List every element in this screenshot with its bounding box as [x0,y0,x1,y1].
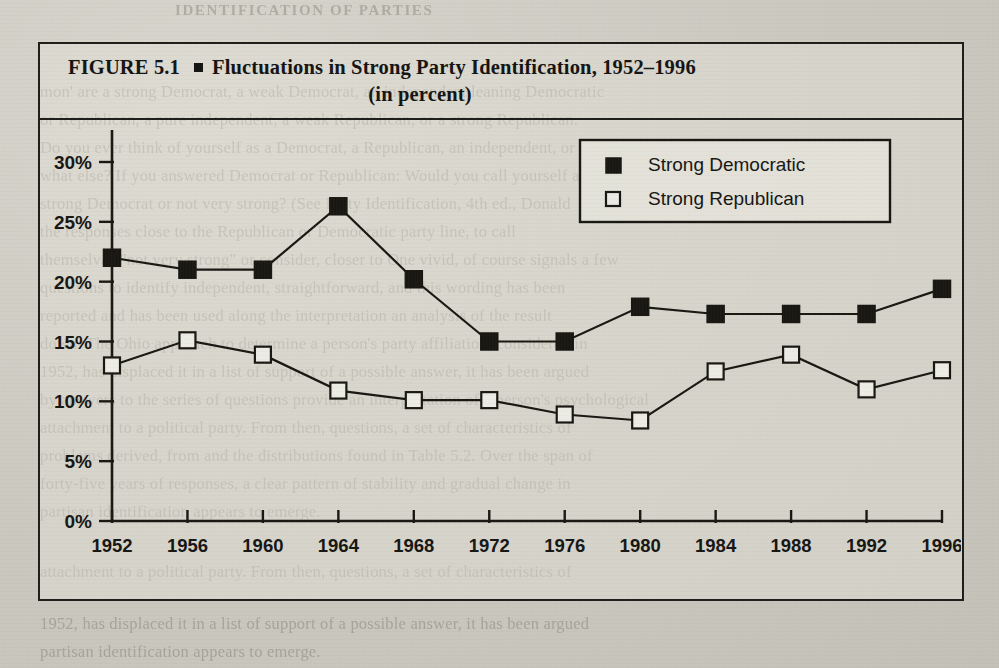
data-point-strong-democratic-1980 [632,298,649,315]
x-tick-label-1988: 1988 [771,535,812,556]
data-point-strong-democratic-1972 [481,333,498,350]
series-line-strong-republican [112,340,942,420]
data-point-strong-republican-1972 [481,392,497,408]
figure-title: FIGURE 5.1Fluctuations in Strong Party I… [68,54,948,108]
legend-marker-strong-democratic [606,158,621,173]
x-tick-label-1980: 1980 [620,535,661,556]
data-point-strong-democratic-1984 [707,305,724,322]
x-tick-label-1996: 1996 [921,535,961,556]
legend-box [580,140,890,222]
y-tick-label-5%: 5% [65,451,93,472]
data-point-strong-republican-1988 [783,347,799,363]
data-point-strong-republican-1976 [557,406,573,422]
data-point-strong-republican-1980 [632,412,648,428]
series-markers-strong-republican [104,332,950,428]
legend-label-strong-democratic: Strong Democratic [648,154,805,175]
data-point-strong-republican-1996 [934,362,950,378]
data-point-strong-republican-1952 [104,357,120,373]
data-point-strong-republican-1964 [330,383,346,399]
x-tick-label-1956: 1956 [167,535,208,556]
data-point-strong-democratic-1968 [405,271,422,288]
data-point-strong-republican-1956 [179,332,195,348]
y-tick-label-10%: 10% [54,391,92,412]
y-tick-label-25%: 25% [54,212,92,233]
y-tick-label-15%: 15% [54,332,92,353]
x-tick-label-1960: 1960 [242,535,283,556]
figure-title-line2: (in percent) [68,81,948,108]
y-axis-tick-labels: 30%25%20%15%10%5%0% [54,152,92,532]
y-tick-label-0%: 0% [65,511,93,532]
chart-plot-area: 30%25%20%15%10%5%0% 19521956196019641968… [40,120,962,598]
series-line-strong-democratic [112,206,942,341]
legend-marker-strong-republican [606,192,620,206]
data-point-strong-democratic-1964 [330,198,347,215]
figure-title-line1: Fluctuations in Strong Party Identificat… [212,56,696,78]
data-point-strong-republican-1968 [406,392,422,408]
y-tick-label-20%: 20% [54,272,92,293]
data-point-strong-democratic-1956 [179,261,196,278]
x-tick-label-1976: 1976 [544,535,585,556]
data-point-strong-democratic-1992 [858,305,875,322]
data-point-strong-republican-1960 [255,347,271,363]
x-tick-label-1992: 1992 [846,535,887,556]
figure-title-band: FIGURE 5.1Fluctuations in Strong Party I… [40,44,962,120]
data-point-strong-democratic-1960 [254,261,271,278]
x-tick-label-1972: 1972 [469,535,510,556]
x-axis-tick-labels: 1952195619601964196819721976198019841988… [91,535,961,556]
x-tick-label-1952: 1952 [91,535,132,556]
chart-legend: Strong Democratic Strong Republican [580,140,890,222]
data-point-strong-democratic-1976 [556,333,573,350]
data-point-strong-democratic-1996 [934,280,951,297]
figure-container: FIGURE 5.1Fluctuations in Strong Party I… [38,42,964,601]
x-tick-label-1984: 1984 [695,535,737,556]
x-tick-label-1968: 1968 [393,535,434,556]
data-point-strong-republican-1992 [859,381,875,397]
data-point-strong-republican-1984 [708,363,724,379]
legend-label-strong-republican: Strong Republican [648,188,804,209]
y-tick-label-30%: 30% [54,152,92,173]
square-bullet-icon [194,63,203,72]
x-tick-label-1964: 1964 [318,535,360,556]
line-chart-svg: 30%25%20%15%10%5%0% 19521956196019641968… [40,120,961,598]
data-point-strong-democratic-1988 [783,305,800,322]
data-point-strong-democratic-1952 [104,249,121,266]
figure-label: FIGURE 5.1 [68,56,180,78]
